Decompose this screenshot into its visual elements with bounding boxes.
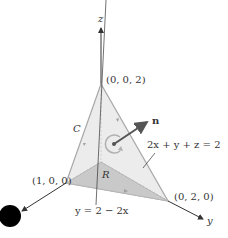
- point-right-label: (0, 2, 0): [174, 191, 214, 202]
- x-axis: [22, 183, 66, 211]
- dot-marker: [0, 205, 21, 227]
- z-axis-label: z: [97, 13, 104, 24]
- line-equation-label: y = 2 − 2x: [74, 205, 129, 216]
- y-axis: [168, 201, 203, 219]
- y-axis-label: y: [206, 215, 213, 226]
- region-r-label: R: [101, 169, 110, 180]
- surface-diagram: z y n (0, 0, 2) C 2x + y + z = 2 (1, 0, …: [0, 0, 228, 238]
- point-top-label: (0, 0, 2): [106, 74, 146, 85]
- normal-label: n: [152, 115, 160, 126]
- point-left-label: (1, 0, 0): [32, 175, 72, 186]
- plane-equation-label: 2x + y + z = 2: [147, 139, 221, 150]
- curve-c-label: C: [73, 123, 81, 134]
